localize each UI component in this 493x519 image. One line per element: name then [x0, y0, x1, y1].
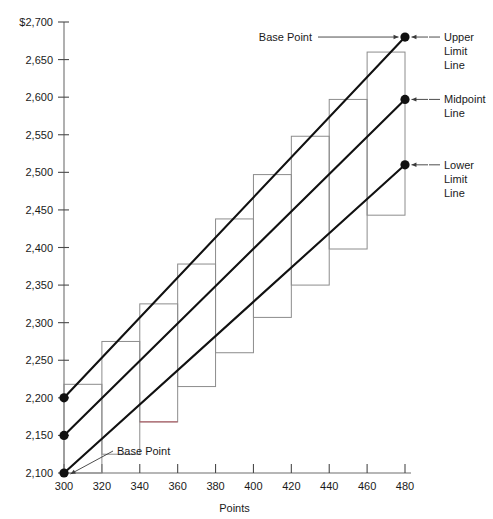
- midpoint-line-label: Line: [444, 107, 465, 119]
- y-tick-label: 2,300: [25, 317, 53, 329]
- y-tick-label: 2,400: [25, 242, 53, 254]
- y-tick-label: 2,650: [25, 54, 53, 66]
- x-tick-label: 300: [55, 480, 73, 492]
- y-axis: 2,1002,1502,2002,2502,3002,3502,4002,450…: [19, 16, 69, 479]
- grade-range-box: [216, 219, 254, 353]
- chart-container: 2,1002,1502,2002,2502,3002,3502,4002,450…: [0, 0, 493, 519]
- end-point-marker: [400, 95, 409, 104]
- y-tick-label: 2,450: [25, 204, 53, 216]
- x-axis-title: Points: [219, 502, 250, 514]
- x-tick-label: 420: [282, 480, 300, 492]
- upper-limit-line-leader-head: [412, 35, 417, 39]
- y-tick-label: 2,250: [25, 354, 53, 366]
- base-point-bottom-label: Base Point: [117, 445, 170, 457]
- x-tick-label: 460: [358, 480, 376, 492]
- base-point-marker: [59, 468, 68, 477]
- grade-range-box: [178, 264, 216, 387]
- lower-limit-line-leader-head: [412, 163, 417, 167]
- y-tick-label: 2,150: [25, 429, 53, 441]
- grade-range-box: [140, 304, 178, 422]
- end-point-marker: [400, 32, 409, 41]
- x-tick-label: 380: [206, 480, 224, 492]
- x-tick-label: 400: [244, 480, 262, 492]
- x-tick-label: 480: [396, 480, 414, 492]
- y-tick-label: 2,550: [25, 129, 53, 141]
- end-point-marker: [400, 160, 409, 169]
- base-point-top-label: Base Point: [259, 31, 312, 43]
- upper-limit-line-label: Upper: [444, 31, 474, 43]
- x-axis: 300320340360380400420440460480Points: [55, 464, 414, 514]
- y-tick-label: 2,500: [25, 166, 53, 178]
- pay-line: [64, 165, 405, 473]
- lower-limit-line-label: Lower: [444, 159, 474, 171]
- y-tick-label: 2,600: [25, 91, 53, 103]
- upper-limit-line-label: Limit: [444, 45, 467, 57]
- grade-range-boxes: [64, 52, 405, 473]
- upper-limit-line-label: Line: [444, 59, 465, 71]
- lower-limit-line-label: Limit: [444, 173, 467, 185]
- y-tick-label: 2,350: [25, 279, 53, 291]
- midpoint-line-label: Midpoint: [444, 93, 486, 105]
- x-tick-label: 360: [168, 480, 186, 492]
- base-point-top-leader-head: [394, 35, 399, 39]
- y-tick-label: 2,100: [25, 467, 53, 479]
- pay-structure-chart: 2,1002,1502,2002,2502,3002,3502,4002,450…: [0, 0, 493, 519]
- pay-line: [64, 37, 405, 398]
- lower-limit-line-label: Line: [444, 187, 465, 199]
- base-point-marker: [59, 393, 68, 402]
- annotations: Base PointBase PointUpperLimitLineMidpoi…: [71, 31, 486, 474]
- x-tick-label: 440: [320, 480, 338, 492]
- pay-line: [64, 99, 405, 435]
- base-point-marker: [59, 431, 68, 440]
- y-tick-label: $2,700: [19, 16, 53, 28]
- midpoint-line-leader-head: [412, 97, 417, 101]
- y-tick-label: 2,200: [25, 392, 53, 404]
- grade-range-box: [367, 52, 405, 215]
- x-tick-label: 320: [93, 480, 111, 492]
- pay-lines: [64, 37, 405, 473]
- x-tick-label: 340: [131, 480, 149, 492]
- grade-range-box: [102, 341, 140, 454]
- grade-range-box: [329, 99, 367, 249]
